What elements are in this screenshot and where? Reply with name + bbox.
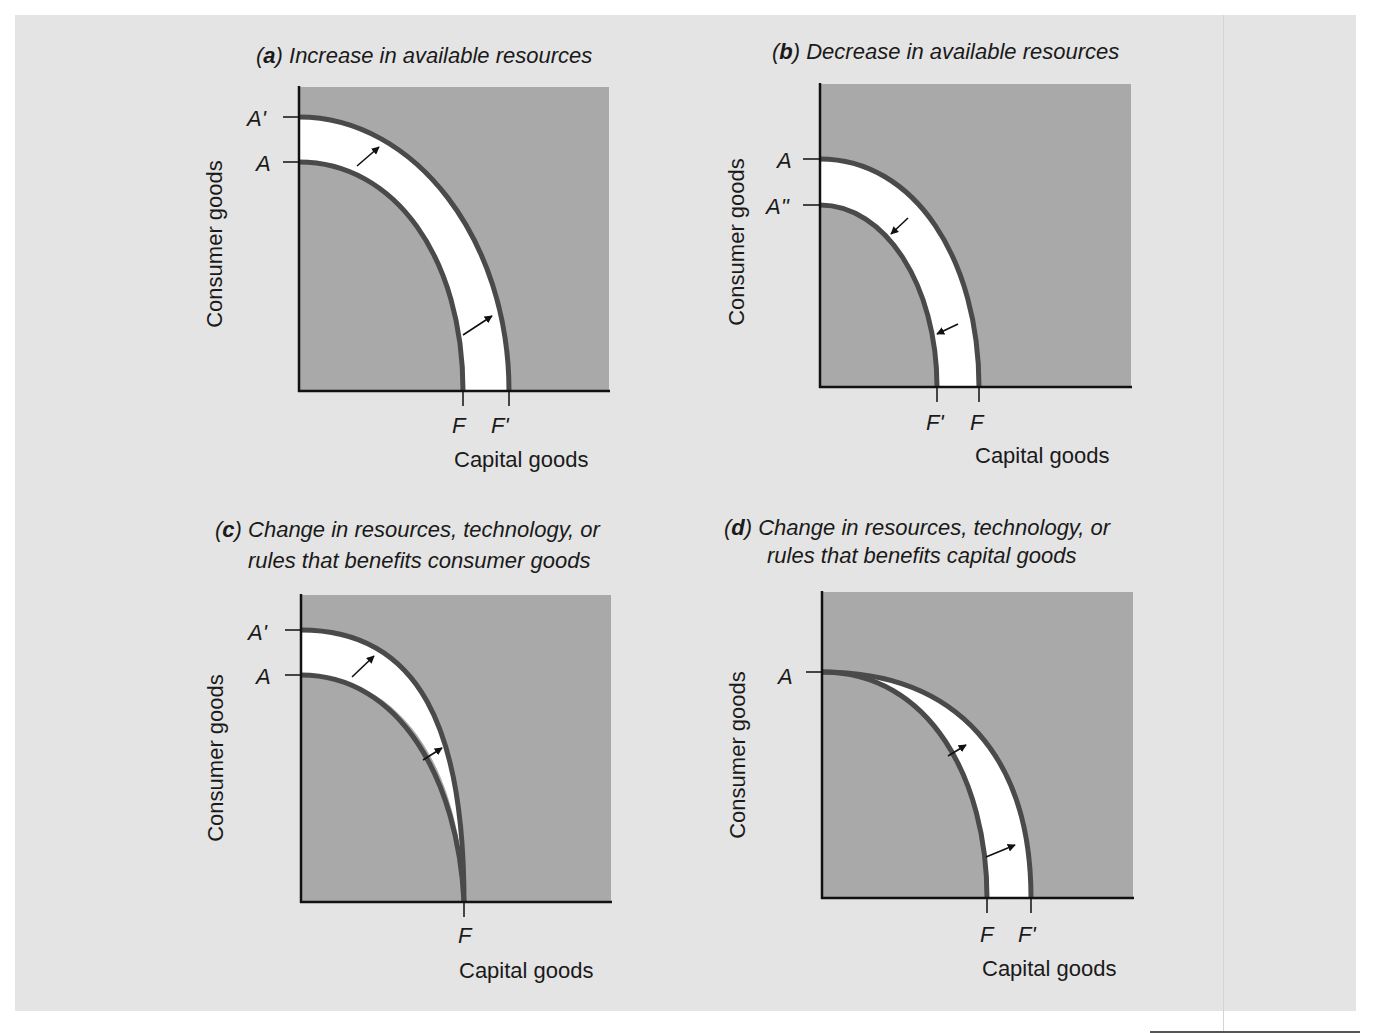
- panel-a-y-label: Consumer goods: [202, 160, 227, 328]
- panel-c: (c) Change in resources, technology, or …: [203, 517, 612, 983]
- panel-c-x-label: Capital goods: [459, 958, 594, 983]
- panel-d-point-label: F': [1018, 922, 1036, 947]
- panel-c-point-label: A: [254, 664, 271, 689]
- panel-a-point-label: F: [452, 413, 467, 438]
- panel-a: (a) Increase in available resources A' A…: [202, 43, 610, 472]
- panel-d-y-label: Consumer goods: [725, 671, 750, 839]
- panel-d-point-label: F: [980, 922, 995, 947]
- panel-b: (b) Decrease in available resources A A'…: [724, 39, 1132, 468]
- panel-d: (d) Change in resources, technology, or …: [724, 515, 1134, 981]
- panel-c-point-label: A': [246, 620, 268, 645]
- panel-a-point-label: F': [491, 413, 509, 438]
- panel-c-title-line2: rules that benefits consumer goods: [248, 548, 590, 573]
- panel-d-x-label: Capital goods: [982, 956, 1117, 981]
- panel-d-point-label: A: [776, 664, 793, 689]
- panel-a-title: (a) Increase in available resources: [256, 43, 592, 68]
- panel-c-y-label: Consumer goods: [203, 674, 228, 842]
- panel-c-title: (c) Change in resources, technology, or: [215, 517, 601, 542]
- panel-c-point-label: F: [458, 923, 473, 948]
- panel-a-x-label: Capital goods: [454, 447, 589, 472]
- ppf-diagram: (a) Increase in available resources A' A…: [0, 0, 1378, 1033]
- panel-b-point-label: A'': [764, 194, 790, 219]
- panel-d-title-line2: rules that benefits capital goods: [767, 543, 1076, 568]
- panel-b-title: (b) Decrease in available resources: [772, 39, 1119, 64]
- panel-b-x-label: Capital goods: [975, 443, 1110, 468]
- panel-d-title: (d) Change in resources, technology, or: [724, 515, 1112, 540]
- panel-a-point-label: A: [254, 151, 271, 176]
- panel-b-point-label: F: [970, 410, 985, 435]
- panel-b-y-label: Consumer goods: [724, 158, 749, 326]
- panel-b-point-label: A: [775, 148, 792, 173]
- panel-b-point-label: F': [926, 410, 944, 435]
- panel-a-point-label: A': [245, 106, 267, 131]
